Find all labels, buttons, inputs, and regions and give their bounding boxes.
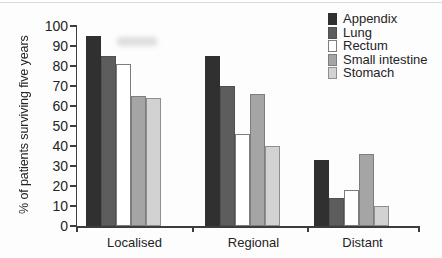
y-tick-label-90: 90 bbox=[38, 39, 68, 53]
y-tick-label-0: 0 bbox=[38, 219, 68, 233]
y-tick-label-50: 50 bbox=[38, 119, 68, 133]
y-tick-mark-90 bbox=[70, 45, 76, 47]
y-tick-label-10: 10 bbox=[38, 199, 68, 213]
legend-item-small-intestine: Small intestine bbox=[328, 54, 428, 66]
y-tick-label-30: 30 bbox=[38, 159, 68, 173]
legend-swatch-stomach bbox=[328, 67, 337, 79]
y-tick-label-80: 80 bbox=[38, 59, 68, 73]
bar-rectum-localised bbox=[116, 64, 131, 226]
bar-lung-distant bbox=[329, 198, 344, 226]
y-tick-mark-40 bbox=[70, 145, 76, 147]
x-axis bbox=[76, 226, 420, 228]
x-tick-mark-3 bbox=[418, 228, 420, 232]
scan-artifact bbox=[117, 37, 157, 46]
category-label-distant: Distant bbox=[318, 236, 408, 249]
y-tick-label-60: 60 bbox=[38, 99, 68, 113]
legend-label-appendix: Appendix bbox=[343, 13, 397, 25]
bar-lung-localised bbox=[101, 56, 116, 226]
legend-swatch-rectum bbox=[328, 40, 337, 52]
bar-stomach-distant bbox=[374, 206, 389, 226]
legend-swatch-lung bbox=[328, 27, 337, 39]
legend-item-lung: Lung bbox=[328, 27, 428, 39]
bar-appendix-localised bbox=[86, 36, 101, 226]
y-tick-mark-70 bbox=[70, 85, 76, 87]
legend-item-appendix: Appendix bbox=[328, 13, 428, 25]
bar-stomach-regional bbox=[265, 146, 280, 226]
y-tick-label-40: 40 bbox=[38, 139, 68, 153]
legend-label-rectum: Rectum bbox=[343, 40, 388, 52]
legend: AppendixLungRectumSmall intestineStomach bbox=[328, 13, 428, 79]
y-tick-label-70: 70 bbox=[38, 79, 68, 93]
legend-item-rectum: Rectum bbox=[328, 40, 428, 52]
bar-small-intestine-regional bbox=[250, 94, 265, 226]
bar-small-intestine-localised bbox=[131, 96, 146, 226]
x-tick-mark-2 bbox=[307, 228, 309, 232]
legend-label-lung: Lung bbox=[343, 27, 372, 39]
legend-label-small-intestine: Small intestine bbox=[343, 54, 428, 66]
y-tick-mark-60 bbox=[70, 105, 76, 107]
bar-lung-regional bbox=[220, 86, 235, 226]
legend-swatch-appendix bbox=[328, 13, 337, 25]
y-tick-mark-10 bbox=[70, 205, 76, 207]
bar-appendix-distant bbox=[314, 160, 329, 226]
legend-swatch-small-intestine bbox=[328, 54, 337, 66]
x-tick-mark-1 bbox=[192, 228, 194, 232]
bar-small-intestine-distant bbox=[359, 154, 374, 226]
y-tick-mark-100 bbox=[70, 25, 76, 27]
y-axis-label: % of patients surviving five years bbox=[15, 24, 32, 226]
scan-top-line bbox=[0, 2, 442, 3]
y-tick-mark-20 bbox=[70, 185, 76, 187]
y-tick-mark-80 bbox=[70, 65, 76, 67]
y-tick-mark-30 bbox=[70, 165, 76, 167]
bar-appendix-regional bbox=[205, 56, 220, 226]
bar-rectum-regional bbox=[235, 134, 250, 226]
x-tick-mark-0 bbox=[76, 228, 78, 232]
bar-stomach-localised bbox=[146, 98, 161, 226]
bar-rectum-distant bbox=[344, 190, 359, 226]
category-label-localised: Localised bbox=[90, 236, 180, 249]
legend-item-stomach: Stomach bbox=[328, 67, 428, 79]
y-tick-label-100: 100 bbox=[38, 19, 68, 33]
y-tick-mark-50 bbox=[70, 125, 76, 127]
category-label-regional: Regional bbox=[209, 236, 299, 249]
y-tick-label-20: 20 bbox=[38, 179, 68, 193]
legend-label-stomach: Stomach bbox=[343, 67, 394, 79]
chart-figure: % of patients surviving five years 01020… bbox=[0, 0, 442, 258]
